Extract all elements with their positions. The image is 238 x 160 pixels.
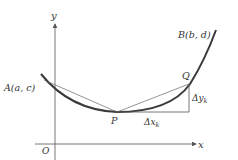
arc-length-diagram: y x O A(a, c) B(b, d) P Q Δxk Δyk bbox=[0, 0, 238, 160]
point-b-label: B(b, d) bbox=[177, 29, 211, 40]
origin-label: O bbox=[42, 146, 50, 156]
delta-x-label: Δxk bbox=[143, 117, 160, 129]
point-q-label: Q bbox=[182, 70, 190, 81]
point-a-label: A(a, c) bbox=[3, 82, 36, 93]
x-axis-label: x bbox=[198, 139, 204, 150]
delta-y-label: Δyk bbox=[191, 93, 208, 105]
point-p-label: P bbox=[110, 115, 118, 126]
y-axis-label: y bbox=[50, 10, 57, 21]
